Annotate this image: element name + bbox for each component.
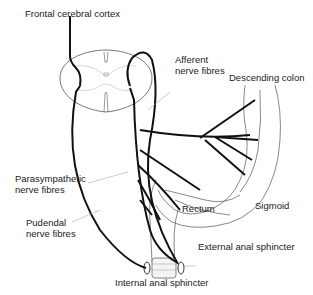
cortex-tract [70,16,81,86]
label-frontal-cortex: Frontal cerebral cortex [25,9,120,20]
label-internal-sphincter: Internal anal sphincter [115,278,208,289]
internal-anal-sphincter [152,258,176,278]
label-parasympathetic-line1: Parasympathetic [15,174,86,185]
nerve-fibres [72,52,258,268]
label-sigmoid: Sigmoid [255,201,289,212]
label-external-sphincter: External anal sphincter [198,242,295,253]
colon-outline [150,85,281,262]
label-rectum: Rectum [182,204,215,215]
label-parasympathetic-line2: nerve fibres [15,185,65,196]
label-pudendal-line1: Pudendal [26,218,66,229]
label-afferent-line2: nerve fibres [175,66,225,77]
label-pudendal-line2: nerve fibres [26,229,76,240]
label-descending-colon: Descending colon [229,73,305,84]
label-afferent-line1: Afferent [175,55,208,66]
